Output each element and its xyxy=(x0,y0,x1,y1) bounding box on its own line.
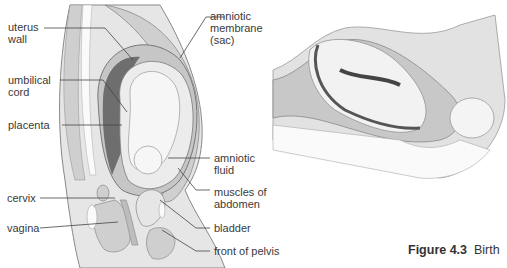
label-placenta: placenta xyxy=(8,119,50,131)
left-section-diagram xyxy=(60,5,225,268)
label-muscles-of-abdomen: muscles of abdomen xyxy=(214,186,267,210)
label-umbilical-cord: umbilical cord xyxy=(8,74,51,98)
figure-title: Birth xyxy=(474,243,500,257)
label-front-of-pelvis: front of pelvis xyxy=(214,245,279,257)
label-amniotic-fluid: amniotic fluid xyxy=(214,152,255,176)
figure-number: Figure 4.3 xyxy=(408,243,467,257)
right-birth-diagram xyxy=(273,15,505,178)
label-amniotic-membrane: amniotic membrane (sac) xyxy=(210,10,263,46)
label-bladder: bladder xyxy=(214,222,251,234)
label-vagina: vagina xyxy=(7,222,39,234)
label-uterus-wall: uterus wall xyxy=(8,21,39,45)
figure-caption: Figure 4.3 Birth xyxy=(408,243,500,257)
label-cervix: cervix xyxy=(7,192,36,204)
